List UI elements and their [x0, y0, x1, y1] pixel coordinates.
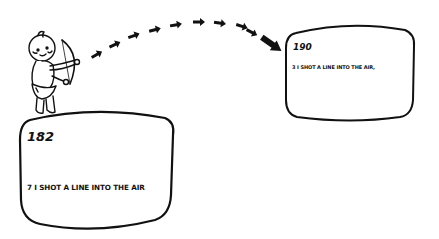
arrow-arc: [90, 18, 285, 61]
arrow-icon: [169, 20, 182, 30]
cherub-archer-icon: [29, 31, 80, 113]
screen-190-line: 3 I SHOT A LINE INTO THE AIR,: [292, 64, 375, 70]
arrow-icon: [193, 18, 205, 26]
illustration: 182 7 I SHOT A LINE INTO THE AIR 190 3 I…: [0, 0, 439, 239]
illustration-art: [0, 0, 439, 239]
arrow-icon: [148, 24, 162, 35]
screen-182-line: 7 I SHOT A LINE INTO THE AIR: [27, 183, 145, 192]
arrow-icon: [127, 30, 141, 42]
arrow-icon: [213, 18, 226, 28]
screen-190-frame: [286, 26, 414, 121]
arrow-icon: [108, 38, 122, 50]
screen-190-number: 190: [293, 42, 312, 52]
arrow-icon: [90, 48, 104, 61]
screen-182-number: 182: [27, 129, 54, 144]
arrow-large-icon: [258, 32, 285, 56]
